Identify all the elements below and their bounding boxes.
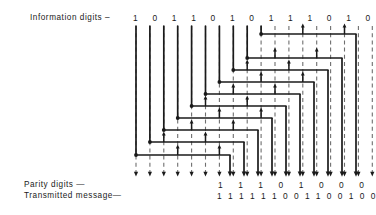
encoder-diagram: Information digits – 1 0 1 1 0 1 0 1 1 1… bbox=[0, 0, 376, 215]
parity-digits-label: Parity digits — bbox=[24, 180, 85, 189]
parity-digits-row: 1 1 1 0 1 0 0 0 1 0 bbox=[218, 180, 376, 190]
transmitted-message-row: 1 1 1 1 1 1 0 0 1 1 0 0 1 0 0 0 0 1 1 0 … bbox=[217, 191, 376, 201]
transmitted-message-label: Transmitted message— bbox=[24, 191, 122, 200]
